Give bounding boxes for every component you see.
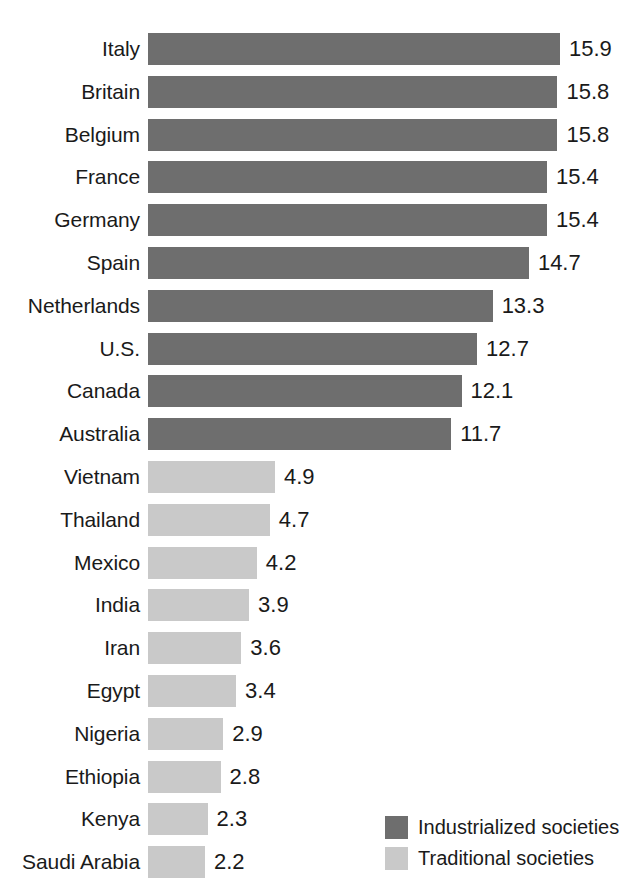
bar-value-label: 11.7 [460, 418, 501, 450]
bar-traditional [148, 547, 257, 579]
bar-category-label: Egypt [0, 675, 140, 707]
bar-category-label: Saudi Arabia [0, 846, 140, 878]
bar-value-label: 2.2 [214, 846, 245, 878]
bar-traditional [148, 589, 249, 621]
bar-category-label: France [0, 161, 140, 193]
bar-row: Canada12.1 [0, 375, 635, 407]
bar-row: Iran3.6 [0, 632, 635, 664]
bar-category-label: Vietnam [0, 461, 140, 493]
bar-industrialized [148, 204, 547, 236]
bar-value-label: 3.6 [250, 632, 281, 664]
bar-category-label: Mexico [0, 547, 140, 579]
bar-category-label: Kenya [0, 803, 140, 835]
bar-industrialized [148, 33, 560, 65]
bar-traditional [148, 803, 208, 835]
legend-label: Traditional societies [418, 843, 594, 874]
bar-traditional [148, 675, 236, 707]
bar-traditional [148, 846, 205, 878]
bar-value-label: 12.1 [471, 375, 514, 407]
bar-row: Spain14.7 [0, 247, 635, 279]
bar-row: Germany15.4 [0, 204, 635, 236]
bar-category-label: Britain [0, 76, 140, 108]
bar-category-label: Thailand [0, 504, 140, 536]
bar-value-label: 13.3 [502, 290, 545, 322]
bar-row: Netherlands13.3 [0, 290, 635, 322]
bar-value-label: 4.7 [279, 504, 310, 536]
chart-legend: Industrialized societiesTraditional soci… [385, 812, 635, 874]
bar-row: Nigeria2.9 [0, 718, 635, 750]
bar-value-label: 4.9 [284, 461, 315, 493]
bar-industrialized [148, 247, 529, 279]
bar-category-label: Germany [0, 204, 140, 236]
bar-category-label: India [0, 589, 140, 621]
bar-industrialized [148, 290, 493, 322]
bar-category-label: Netherlands [0, 290, 140, 322]
bar-row: Britain15.8 [0, 76, 635, 108]
bar-traditional [148, 718, 223, 750]
bar-value-label: 15.4 [556, 204, 599, 236]
bar-traditional [148, 461, 275, 493]
bar-row: France15.4 [0, 161, 635, 193]
bar-row: Thailand4.7 [0, 504, 635, 536]
legend-item: Traditional societies [385, 843, 635, 874]
legend-swatch-icon [385, 816, 408, 839]
bar-traditional [148, 632, 241, 664]
bar-chart: Italy15.9Britain15.8Belgium15.8France15.… [0, 0, 635, 896]
bar-industrialized [148, 375, 462, 407]
bar-value-label: 15.8 [566, 76, 609, 108]
bar-value-label: 2.9 [232, 718, 263, 750]
bar-industrialized [148, 119, 557, 151]
bar-row: India3.9 [0, 589, 635, 621]
bar-value-label: 2.3 [217, 803, 248, 835]
bar-value-label: 14.7 [538, 247, 581, 279]
legend-swatch-icon [385, 847, 408, 870]
bar-category-label: Belgium [0, 119, 140, 151]
bar-traditional [148, 504, 270, 536]
bar-value-label: 3.4 [245, 675, 276, 707]
bar-category-label: U.S. [0, 333, 140, 365]
bar-value-label: 3.9 [258, 589, 289, 621]
bar-industrialized [148, 333, 477, 365]
legend-item: Industrialized societies [385, 812, 635, 843]
bar-row: Vietnam4.9 [0, 461, 635, 493]
bar-row: U.S.12.7 [0, 333, 635, 365]
bar-value-label: 12.7 [486, 333, 529, 365]
bar-category-label: Australia [0, 418, 140, 450]
bar-industrialized [148, 76, 557, 108]
bar-value-label: 15.9 [569, 33, 612, 65]
bar-row: Egypt3.4 [0, 675, 635, 707]
bar-category-label: Iran [0, 632, 140, 664]
bar-category-label: Nigeria [0, 718, 140, 750]
bar-category-label: Ethiopia [0, 761, 140, 793]
legend-label: Industrialized societies [418, 812, 619, 843]
bar-row: Belgium15.8 [0, 119, 635, 151]
bar-value-label: 2.8 [230, 761, 261, 793]
bar-category-label: Spain [0, 247, 140, 279]
bar-industrialized [148, 418, 451, 450]
bar-traditional [148, 761, 221, 793]
bar-category-label: Canada [0, 375, 140, 407]
bar-value-label: 15.8 [566, 119, 609, 151]
bar-value-label: 15.4 [556, 161, 599, 193]
bar-industrialized [148, 161, 547, 193]
bar-category-label: Italy [0, 33, 140, 65]
bar-row: Australia11.7 [0, 418, 635, 450]
bar-value-label: 4.2 [266, 547, 297, 579]
bar-row: Ethiopia2.8 [0, 761, 635, 793]
bar-row: Italy15.9 [0, 33, 635, 65]
bar-row: Mexico4.2 [0, 547, 635, 579]
